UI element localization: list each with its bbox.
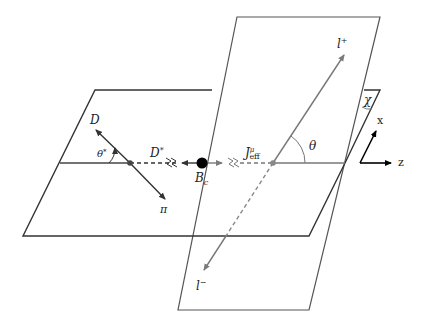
bc-vertex [197, 158, 208, 169]
label-chi: χ [363, 93, 372, 107]
label-theta: θ [309, 139, 317, 153]
d-star-vertex [127, 160, 133, 166]
theta-arc [291, 136, 305, 163]
theta-star-arc [109, 148, 115, 163]
label-axis-x: x [377, 114, 384, 127]
label-axis-z: z [398, 156, 404, 169]
meson-plane-corner [345, 90, 380, 163]
j-eff-vertex [270, 160, 276, 166]
axis-x-arrow [360, 131, 376, 163]
label-l-plus: l+ [337, 36, 348, 51]
label-l-minus: l− [196, 278, 207, 293]
label-j-eff: Jμeff [242, 146, 261, 161]
l-minus-track [204, 236, 226, 270]
label-bc: Bc [194, 171, 209, 187]
label-d: D [89, 113, 100, 127]
label-theta-star: θ* [97, 148, 107, 159]
pion-track [130, 163, 165, 199]
label-d-star: D* [149, 146, 164, 160]
decay-planes-diagram: D π θ* D* Bc Jμeff θ l+ l− χ x z [0, 0, 425, 327]
chi-arc [362, 107, 372, 109]
label-pi: π [159, 203, 168, 216]
j-eff-squiggle-icon [228, 158, 239, 167]
l-minus-track-dashed [226, 163, 273, 236]
